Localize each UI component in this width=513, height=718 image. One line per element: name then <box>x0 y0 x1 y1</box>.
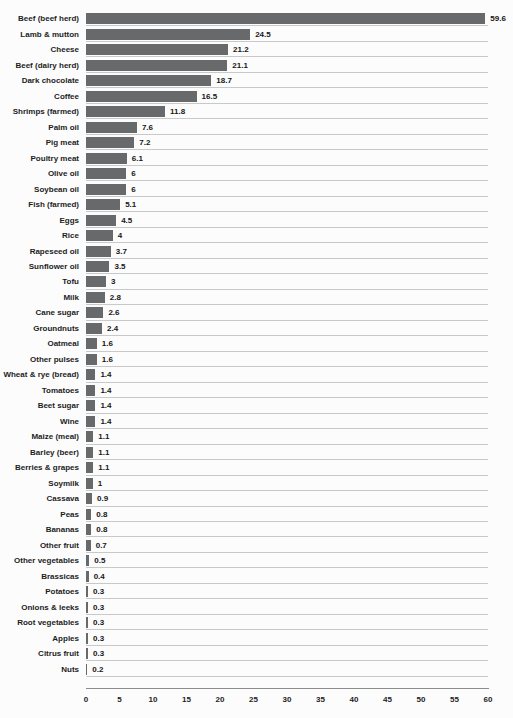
value-label: 0.7 <box>96 541 107 550</box>
category-label: Rice <box>0 228 86 243</box>
value-label: 3.5 <box>114 262 125 271</box>
bar <box>86 338 97 349</box>
chart-row: Brassicas0.4 <box>0 568 513 583</box>
value-label: 0.5 <box>94 556 105 565</box>
value-label: 2.4 <box>107 324 118 333</box>
category-label: Soybean oil <box>0 181 86 196</box>
category-label: Oatmeal <box>0 336 86 351</box>
chart-row: Bananas0.8 <box>0 522 513 537</box>
chart-row: Sunflower oil3.5 <box>0 259 513 274</box>
value-label: 6 <box>131 169 135 178</box>
row-plot-area: 3.7 <box>86 243 488 258</box>
value-label: 2.8 <box>110 293 121 302</box>
row-plot-area: 0.7 <box>86 537 488 552</box>
category-label: Citrus fruit <box>0 646 86 661</box>
value-label: 21.2 <box>233 45 249 54</box>
row-plot-area: 3.5 <box>86 259 488 274</box>
category-label: Beef (beef herd) <box>0 11 86 26</box>
chart-row: Barley (beer)1.1 <box>0 445 513 460</box>
chart-row: Fish (farmed)5.1 <box>0 197 513 212</box>
category-label: Olive oil <box>0 166 86 181</box>
value-label: 1.4 <box>100 386 111 395</box>
value-label: 11.8 <box>170 107 185 116</box>
bar <box>86 230 113 241</box>
value-label: 4 <box>118 231 122 240</box>
chart-row: Citrus fruit0.3 <box>0 646 513 661</box>
value-label: 16.5 <box>202 92 218 101</box>
row-plot-area: 21.2 <box>86 42 488 57</box>
value-label: 7.2 <box>139 138 150 147</box>
category-label: Milk <box>0 290 86 305</box>
category-label: Other vegetables <box>0 553 86 568</box>
bar <box>86 555 89 566</box>
bar <box>86 276 106 287</box>
category-label: Cassava <box>0 491 86 506</box>
row-plot-area: 5.1 <box>86 197 488 212</box>
category-label: Dark chocolate <box>0 73 86 88</box>
row-plot-area: 18.7 <box>86 73 488 88</box>
chart-row: Wine1.4 <box>0 414 513 429</box>
bar <box>86 246 111 257</box>
chart-row: Groundnuts2.4 <box>0 321 513 336</box>
chart-row: Other vegetables0.5 <box>0 553 513 568</box>
value-label: 2.6 <box>108 308 119 317</box>
bar <box>86 261 109 272</box>
bar <box>86 400 95 411</box>
category-label: Other fruit <box>0 537 86 552</box>
x-tick-label: 0 <box>84 695 88 704</box>
row-plot-area: 2.6 <box>86 305 488 320</box>
value-label: 1.6 <box>102 355 113 364</box>
bar <box>86 431 93 442</box>
x-tick-label: 55 <box>450 695 459 704</box>
bar <box>86 44 228 55</box>
chart-row: Onions & leeks0.3 <box>0 599 513 614</box>
chart-row: Soymilk1 <box>0 476 513 491</box>
bar <box>86 633 88 644</box>
row-plot-area: 0.3 <box>86 615 488 630</box>
chart-row: Tomatoes1.4 <box>0 383 513 398</box>
category-label: Fish (farmed) <box>0 197 86 212</box>
chart-row: Dark chocolate18.7 <box>0 73 513 88</box>
bar <box>86 586 88 597</box>
row-plot-area: 1.6 <box>86 336 488 351</box>
row-plot-area: 0.8 <box>86 522 488 537</box>
bar <box>86 153 127 164</box>
category-label: Shrimps (farmed) <box>0 104 86 119</box>
row-plot-area: 2.4 <box>86 321 488 336</box>
category-label: Sunflower oil <box>0 259 86 274</box>
value-label: 1 <box>98 479 102 488</box>
row-plot-area: 0.2 <box>86 661 488 676</box>
chart-row: Rice4 <box>0 228 513 243</box>
chart-row: Rapeseed oil3.7 <box>0 243 513 258</box>
bar <box>86 307 103 318</box>
value-label: 0.3 <box>93 587 104 596</box>
row-plot-area: 7.6 <box>86 119 488 134</box>
chart-row: Other fruit0.7 <box>0 537 513 552</box>
row-plot-area: 0.8 <box>86 507 488 522</box>
value-label: 0.3 <box>93 618 104 627</box>
row-plot-area: 4.5 <box>86 212 488 227</box>
row-plot-area: 21.1 <box>86 57 488 72</box>
chart-row: Wheat & rye (bread)1.4 <box>0 367 513 382</box>
category-label: Groundnuts <box>0 321 86 336</box>
bar <box>86 648 88 659</box>
chart-row: Nuts0.2 <box>0 661 513 676</box>
row-plot-area: 0.3 <box>86 646 488 661</box>
horizontal-bar-chart: Beef (beef herd)59.6Lamb & mutton24.5Che… <box>0 11 513 677</box>
row-plot-area: 11.8 <box>86 104 488 119</box>
bar <box>86 493 92 504</box>
x-axis-tick-labels: 051015202530354045505560 <box>0 695 513 707</box>
value-label: 1.1 <box>98 463 109 472</box>
row-plot-area: 1 <box>86 476 488 491</box>
value-label: 0.8 <box>96 525 107 534</box>
value-label: 1.1 <box>98 432 109 441</box>
value-label: 3 <box>111 277 115 286</box>
value-label: 1.1 <box>98 448 109 457</box>
row-plot-area: 1.4 <box>86 398 488 413</box>
chart-row: Berries & grapes1.1 <box>0 460 513 475</box>
row-plot-area: 1.6 <box>86 352 488 367</box>
bar <box>86 137 134 148</box>
chart-row: Cassava0.9 <box>0 491 513 506</box>
category-label: Pig meat <box>0 135 86 150</box>
chart-row: Eggs4.5 <box>0 212 513 227</box>
